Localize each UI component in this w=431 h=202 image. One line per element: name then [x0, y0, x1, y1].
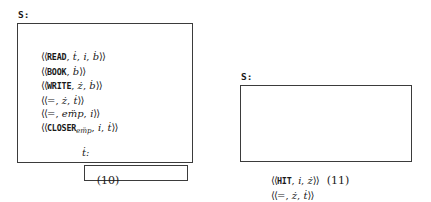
stack-label: S:: [241, 72, 252, 82]
tuple-list: ⟨⟨READ, ṫ, i̇, ḃ⟩⟩ ⟨⟨BOOK, ḃ⟩⟩ ⟨⟨WRITE, …: [41, 50, 190, 138]
tuple-row: ⟨⟨READ, ṫ, i̇, ḃ⟩⟩: [41, 50, 190, 65]
stack-box: ⟨⟨READ, ṫ, i̇, ḃ⟩⟩ ⟨⟨BOOK, ḃ⟩⟩ ⟨⟨WRITE, …: [17, 23, 193, 163]
tuple-row: ⟨⟨BOOK, ḃ⟩⟩: [41, 65, 190, 80]
figure-container: S: ⟨⟨READ, ṫ, i̇, ḃ⟩⟩ ⟨⟨BOOK, ḃ⟩⟩ ⟨⟨WRIT…: [0, 0, 431, 202]
tuple-row: ⟨⟨=, ż, ṫ⟩⟩: [41, 94, 190, 108]
figure-panel-11: S: ⟨⟨HIT, i̇, ż⟩⟩ ⟨⟨=, ż, ṫ⟩⟩ ṫ: (11): [216, 0, 431, 202]
panel-caption: (11): [308, 175, 368, 186]
stack-box: ⟨⟨HIT, i̇, ż⟩⟩ ⟨⟨=, ż, ṫ⟩⟩ ṫ:: [240, 85, 412, 162]
stack-label: S:: [18, 10, 29, 20]
tuple-row: ⟨⟨=, ż, ṫ⟩⟩: [271, 189, 409, 202]
panel-caption: (10): [78, 175, 138, 186]
tuple-row: ⟨⟨WRITE, ż, ḃ⟩⟩: [41, 79, 190, 94]
slot-label: ṫ:: [82, 148, 89, 158]
tuple-row: ⟨⟨=, em̈p, i̇⟩⟩: [41, 107, 190, 121]
figure-panel-10: S: ⟨⟨READ, ṫ, i̇, ḃ⟩⟩ ⟨⟨BOOK, ḃ⟩⟩ ⟨⟨WRIT…: [0, 0, 216, 202]
tuple-row: ⟨⟨CLOSERem̈p, i̇, ṫ⟩⟩: [41, 121, 190, 138]
